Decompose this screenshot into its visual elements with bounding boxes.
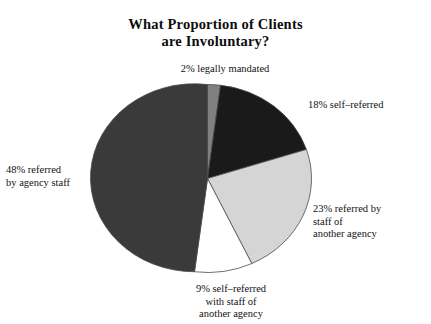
pie-chart-svg bbox=[0, 0, 431, 324]
pie-label-agency-staff: 48% referred by agency staff bbox=[6, 164, 110, 189]
pie-label-self-referred-with-staff: 9% self–referred with staff of another a… bbox=[155, 283, 307, 321]
pie-chart-figure: What Proportion of Clients are Involunta… bbox=[0, 0, 431, 324]
pie-chart-canvas bbox=[0, 0, 431, 324]
pie-label-self-referred: 18% self–referred bbox=[308, 99, 428, 112]
pie-slice-group bbox=[90, 84, 311, 273]
pie-label-staff-another-agency: 23% referred by staff of another agency bbox=[313, 203, 431, 241]
pie-label-legally-mandated: 2% legally mandated bbox=[150, 63, 300, 76]
